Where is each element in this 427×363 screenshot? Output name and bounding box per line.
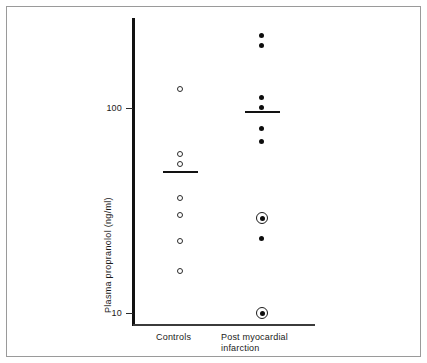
data-point-control — [177, 161, 183, 167]
data-point-control — [177, 86, 183, 92]
y-tick-100 — [126, 108, 133, 109]
data-point-post-mi — [259, 126, 264, 131]
data-point-post-mi-highlighted — [256, 307, 268, 319]
data-point-post-mi — [259, 95, 264, 100]
x-category-label-controls: Controls — [156, 332, 226, 343]
mean-line-controls — [163, 171, 198, 173]
data-point-control — [177, 195, 183, 201]
data-point-post-mi — [259, 139, 264, 144]
data-point-post-mi — [259, 33, 264, 38]
plot-area: 100 10 Plasma propranolol (ng/ml) Contro… — [0, 0, 427, 363]
y-axis-line — [132, 18, 135, 326]
y-tick-label-100: 100 — [88, 104, 122, 113]
y-axis-title: Plasma propranolol (ng/ml) — [104, 197, 113, 313]
data-point-post-mi — [259, 43, 264, 48]
data-point-post-mi — [259, 105, 264, 110]
data-point-control — [177, 238, 183, 244]
data-point-post-mi — [259, 236, 264, 241]
mean-line-post-mi — [245, 111, 280, 113]
y-tick-10 — [126, 313, 133, 314]
data-point-control — [177, 212, 183, 218]
data-point-control — [177, 268, 183, 274]
x-axis-line — [133, 324, 315, 326]
x-category-label-post-mi: Post myocardial infarction — [221, 332, 331, 354]
figure-root: 100 10 Plasma propranolol (ng/ml) Contro… — [0, 0, 427, 363]
data-point-post-mi-highlighted — [256, 212, 268, 224]
data-point-control — [177, 151, 183, 157]
